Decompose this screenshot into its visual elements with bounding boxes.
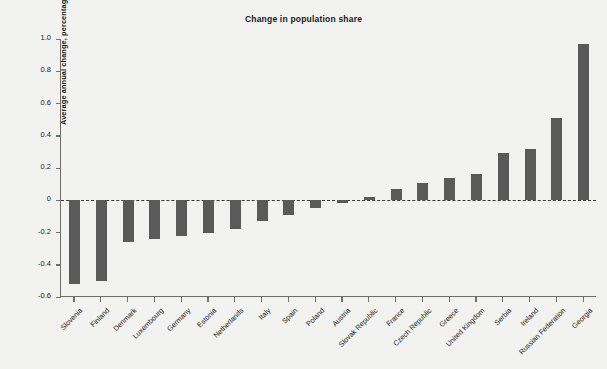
- x-axis-tick-mark: [100, 297, 101, 302]
- y-axis-tick-mark: [56, 264, 61, 265]
- bar[interactable]: [525, 149, 536, 201]
- x-axis-tick-mark: [154, 297, 155, 302]
- chart-container: Change in population share 1.00.80.60.40…: [0, 0, 607, 369]
- y-axis-tick-label: 0.4: [9, 130, 51, 139]
- y-axis-tick-label: -0.2: [9, 227, 51, 236]
- bar[interactable]: [283, 200, 294, 215]
- plot-inner: 1.00.80.60.40.20-0.2-0.4-0.6: [61, 39, 596, 296]
- x-axis-tick-mark: [529, 297, 530, 302]
- y-axis-tick-label: 0: [9, 194, 51, 203]
- x-axis-tick-mark: [207, 297, 208, 302]
- bar[interactable]: [337, 200, 348, 203]
- bar[interactable]: [149, 200, 160, 239]
- x-axis-tick-mark: [556, 297, 557, 302]
- bar[interactable]: [551, 118, 562, 200]
- bar[interactable]: [96, 200, 107, 281]
- x-axis-tick-mark: [368, 297, 369, 302]
- y-axis-tick-mark: [56, 135, 61, 136]
- y-axis-tick-label: -0.6: [9, 291, 51, 300]
- bar[interactable]: [203, 200, 214, 232]
- bar[interactable]: [230, 200, 241, 229]
- x-axis-tick-mark: [475, 297, 476, 302]
- y-axis-tick-mark: [56, 168, 61, 169]
- bar[interactable]: [444, 178, 455, 201]
- zero-reference-line: [61, 200, 596, 201]
- bar[interactable]: [578, 44, 589, 200]
- bar[interactable]: [471, 174, 482, 200]
- x-axis-tick-mark: [341, 297, 342, 302]
- x-axis-tick-mark: [583, 297, 584, 302]
- bar[interactable]: [69, 200, 80, 284]
- x-axis-tick-mark: [234, 297, 235, 302]
- x-axis-labels: SloveniaFinlandDenmarkLuxembourgGermanyE…: [60, 303, 596, 369]
- x-axis-tick-mark: [127, 297, 128, 302]
- x-axis-tick-mark: [315, 297, 316, 302]
- y-axis-tick-label: 0.6: [9, 98, 51, 107]
- x-axis-tick-mark: [288, 297, 289, 302]
- bar[interactable]: [257, 200, 268, 221]
- x-axis-tick-mark: [73, 297, 74, 302]
- bar[interactable]: [310, 200, 321, 208]
- y-axis-tick-label: 0.8: [9, 65, 51, 74]
- bar[interactable]: [498, 153, 509, 200]
- y-axis-tick-label: -0.4: [9, 259, 51, 268]
- y-axis-tick-mark: [56, 232, 61, 233]
- bar[interactable]: [417, 183, 428, 201]
- x-axis-tick-mark: [181, 297, 182, 302]
- x-axis-tick-mark: [449, 297, 450, 302]
- y-axis-label: Average annual change, percentage points: [59, 0, 68, 125]
- bar[interactable]: [364, 197, 375, 200]
- x-axis-tick-mark: [422, 297, 423, 302]
- plot-area: 1.00.80.60.40.20-0.2-0.4-0.6 Average ann…: [60, 39, 596, 297]
- chart-title: Change in population share: [0, 14, 607, 24]
- x-axis-tick-mark: [395, 297, 396, 302]
- bar[interactable]: [176, 200, 187, 235]
- bar[interactable]: [123, 200, 134, 242]
- bar[interactable]: [391, 189, 402, 200]
- x-axis-tick-mark: [502, 297, 503, 302]
- y-axis-tick-label: 1.0: [9, 33, 51, 42]
- x-axis-tick-mark: [261, 297, 262, 302]
- y-axis-tick-label: 0.2: [9, 162, 51, 171]
